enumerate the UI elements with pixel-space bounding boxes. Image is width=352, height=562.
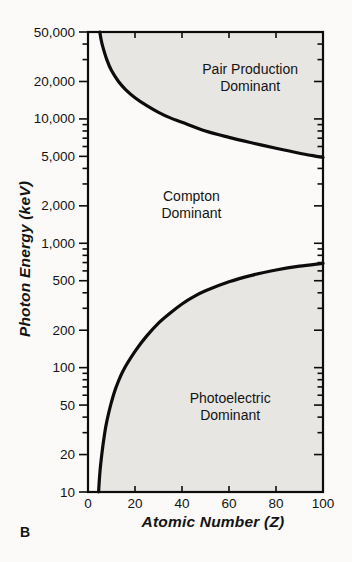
y-tick-label: 100 bbox=[52, 360, 75, 375]
x-tick-label: 0 bbox=[84, 496, 92, 511]
compton-region-label: ComptonDominant bbox=[161, 188, 221, 221]
x-axis-title: Atomic Number (Z) bbox=[142, 513, 285, 531]
y-tick-label: 10,000 bbox=[34, 111, 75, 126]
y-tick-label: 2,000 bbox=[41, 198, 75, 213]
y-tick-label: 1,000 bbox=[41, 236, 75, 251]
y-tick-label: 10 bbox=[60, 485, 75, 500]
compton-region-label-line1: Compton bbox=[163, 188, 220, 204]
y-tick-label: 500 bbox=[52, 273, 75, 288]
x-tick-label: 20 bbox=[127, 496, 142, 511]
y-tick-label: 5,000 bbox=[41, 149, 75, 164]
plot-area: 1020501002005001,0002,0005,00010,00020,0… bbox=[0, 0, 352, 562]
y-tick-labels: 1020501002005001,0002,0005,00010,00020,0… bbox=[34, 25, 75, 500]
photoelectric-region-label-line2: Dominant bbox=[200, 407, 260, 423]
y-tick-label: 20,000 bbox=[34, 74, 75, 89]
y-tick-label: 20 bbox=[60, 447, 75, 462]
x-tick-label: 60 bbox=[221, 496, 236, 511]
photoelectric-region-label-line1: Photoelectric bbox=[190, 390, 271, 406]
y-axis-title: Photon Energy (keV) bbox=[16, 181, 34, 337]
x-tick-label: 100 bbox=[312, 496, 335, 511]
y-tick-label: 50,000 bbox=[34, 25, 75, 40]
photoelectric-region-fill bbox=[99, 263, 323, 492]
compton-region-label-line2: Dominant bbox=[161, 205, 221, 221]
x-tick-label: 80 bbox=[268, 496, 283, 511]
x-tick-labels: 020406080100 bbox=[84, 496, 334, 511]
x-tick-label: 40 bbox=[174, 496, 189, 511]
photoelectric-region-label: PhotoelectricDominant bbox=[190, 390, 271, 423]
panel-label: B bbox=[20, 524, 30, 540]
pair-production-region-label-line1: Pair Production bbox=[202, 61, 298, 77]
y-tick-label: 50 bbox=[60, 398, 75, 413]
pair-production-region-label-line2: Dominant bbox=[220, 78, 280, 94]
figure-panel: 1020501002005001,0002,0005,00010,00020,0… bbox=[0, 0, 352, 562]
y-tick-label: 200 bbox=[52, 323, 75, 338]
